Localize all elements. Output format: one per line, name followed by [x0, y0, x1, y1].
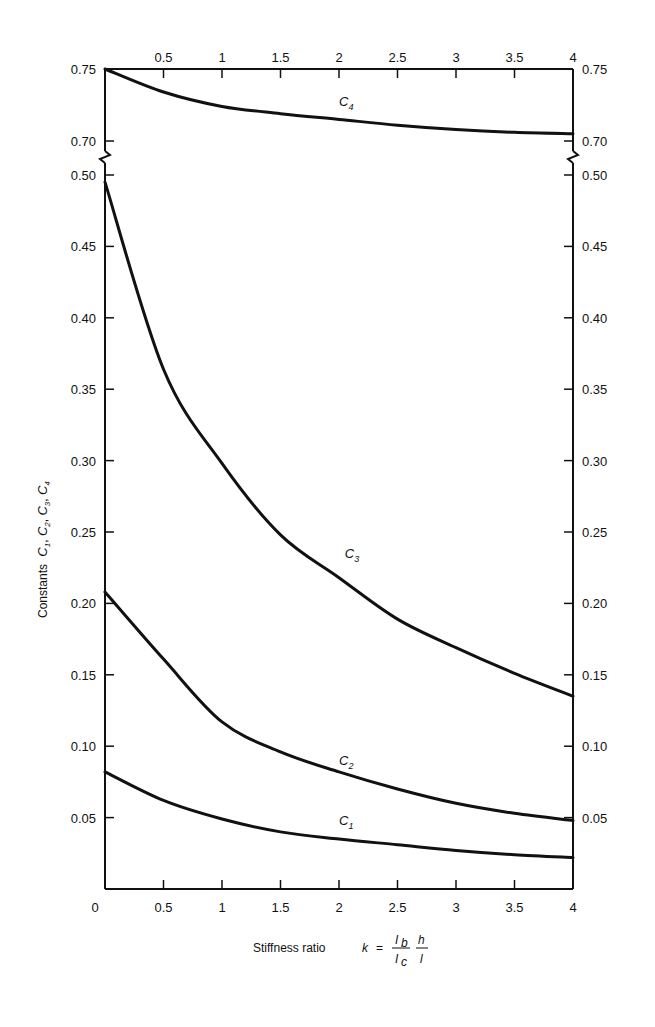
fraction2-numerator: h [418, 933, 425, 947]
curve-label-c2: C2 [339, 753, 353, 771]
y-tick-label-right: 0.10 [582, 739, 607, 754]
left-axis-break-icon [100, 151, 110, 163]
x-tick-label-top: 2.5 [388, 50, 406, 65]
x-tick-label-top: 3 [452, 50, 459, 65]
x-tick-label-bottom: 4 [569, 900, 576, 915]
curve-c3 [105, 182, 573, 696]
x-axis-title-var: k [362, 941, 369, 955]
x-tick-label-top: 3.5 [505, 50, 523, 65]
fraction1-denominator: I [395, 952, 399, 966]
fraction2-denominator: l [420, 952, 423, 966]
x-tick-label-bottom: 1.5 [271, 900, 289, 915]
curve-labels: C1C2C3C4 [339, 94, 359, 830]
y-tick-label-right: 0.20 [582, 596, 607, 611]
y-tick-label-right: 0.75 [582, 62, 607, 77]
x-tick-label-bottom: 0.5 [154, 900, 172, 915]
y-axis-title-prefix: Constants [36, 564, 50, 618]
curve-c2 [105, 592, 573, 820]
svg-text:Constants C1, C2, C3, C4: Constants C1, C2, C3, C4 [35, 481, 52, 618]
x-tick-label-top: 1 [218, 50, 225, 65]
x-tick-label-bottom: 2 [335, 900, 342, 915]
fraction1-numerator: I [395, 933, 399, 947]
x-tick-label-top: 4 [569, 50, 576, 65]
y-tick-label-left: 0.25 [71, 525, 96, 540]
x-axis-title-eq: = [376, 941, 383, 955]
y-tick-label-right: 0.35 [582, 382, 607, 397]
y-tick-label-left: 0.35 [71, 382, 96, 397]
y-tick-label-left: 0.20 [71, 596, 96, 611]
curve-label-c1: C1 [339, 813, 353, 831]
y-axis-title: Constants C1, C2, C3, C4 [35, 481, 52, 618]
x-tick-label-top: 0.5 [154, 50, 172, 65]
y-tick-label-right: 0.40 [582, 311, 607, 326]
x-tick-label-top: 1.5 [271, 50, 289, 65]
x-tick-label-bottom: 2.5 [388, 900, 406, 915]
y-tick-label-left: 0.50 [71, 168, 96, 183]
x-tick-label-top: 2 [335, 50, 342, 65]
x-axis-title-prefix: Stiffness ratio [253, 941, 326, 955]
curve-label-c3: C3 [345, 546, 359, 564]
axis-ticks: 00.511.522.533.540.511.522.533.540.750.7… [71, 50, 608, 915]
y-tick-label-left: 0.15 [71, 668, 96, 683]
y-tick-label-right: 0.50 [582, 168, 607, 183]
x-axis-title: Stiffness ratio k = I b I c h l [253, 933, 428, 969]
y-tick-label-left: 0.30 [71, 454, 96, 469]
y-tick-label-left: 0.05 [71, 811, 96, 826]
y-tick-label-right: 0.15 [582, 668, 607, 683]
y-tick-label-left: 0.45 [71, 239, 96, 254]
y-tick-label-right: 0.30 [582, 454, 607, 469]
y-tick-label-left: 0.10 [71, 739, 96, 754]
x-tick-label-bottom: 3.5 [505, 900, 523, 915]
fraction1-denominator-sub: c [401, 955, 407, 969]
stiffness-ratio-chart: 00.511.522.533.540.511.522.533.540.750.7… [0, 0, 655, 1027]
y-tick-label-left: 0.75 [71, 62, 96, 77]
y-tick-label-left: 0.40 [71, 311, 96, 326]
y-tick-label-left: 0.70 [71, 134, 96, 149]
curves [105, 69, 573, 858]
curve-label-c4: C4 [339, 94, 353, 112]
x-tick-label-bottom: 0 [91, 900, 98, 915]
y-tick-label-right: 0.70 [582, 134, 607, 149]
y-tick-label-right: 0.05 [582, 811, 607, 826]
y-tick-label-right: 0.25 [582, 525, 607, 540]
right-axis-break-icon [568, 151, 578, 163]
y-tick-label-right: 0.45 [582, 239, 607, 254]
x-tick-label-bottom: 1 [218, 900, 225, 915]
x-tick-label-bottom: 3 [452, 900, 459, 915]
